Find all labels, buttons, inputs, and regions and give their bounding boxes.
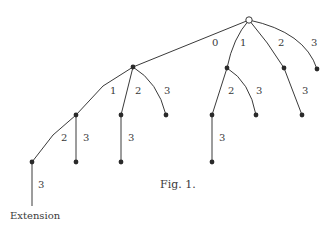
node bbox=[164, 113, 169, 118]
edge-label: 3 bbox=[256, 85, 262, 96]
edge-a-a2 bbox=[121, 67, 133, 115]
node bbox=[119, 160, 124, 165]
node bbox=[131, 65, 136, 70]
node bbox=[254, 113, 259, 118]
node bbox=[210, 160, 215, 165]
tree-diagram: 0 1 2 3 1 2 3 2 3 3 2 3 3 3 3 Fig. 1. Ex… bbox=[0, 0, 335, 230]
edge-label: 3 bbox=[38, 179, 44, 190]
extension-label: Extension bbox=[10, 210, 61, 221]
node bbox=[225, 66, 230, 71]
tree-nodes bbox=[30, 17, 320, 165]
node bbox=[74, 160, 79, 165]
edge-label: 3 bbox=[128, 132, 134, 143]
node bbox=[210, 113, 215, 118]
edge-label: 3 bbox=[83, 132, 89, 143]
edge-label: 3 bbox=[219, 132, 225, 143]
edge-label: 3 bbox=[311, 37, 317, 48]
figure-caption: Fig. 1. bbox=[160, 178, 196, 191]
node bbox=[300, 113, 305, 118]
edge-r-a bbox=[133, 20, 249, 67]
edge-c-c3 bbox=[284, 68, 302, 115]
root-node bbox=[246, 17, 252, 23]
edge-label: 3 bbox=[302, 85, 308, 96]
edge-label: 2 bbox=[135, 85, 141, 96]
edge-labels: 0 1 2 3 1 2 3 2 3 3 2 3 3 3 3 bbox=[38, 37, 317, 190]
node bbox=[30, 160, 35, 165]
edge-a-a1 bbox=[76, 67, 133, 115]
edge-label: 2 bbox=[61, 132, 67, 143]
edge-label: 2 bbox=[278, 37, 284, 48]
node bbox=[74, 113, 79, 118]
node bbox=[315, 67, 320, 72]
edge-label: 3 bbox=[164, 85, 170, 96]
edge-label: 1 bbox=[110, 85, 116, 96]
edge-label: 0 bbox=[212, 37, 218, 48]
edge-label: 2 bbox=[228, 85, 234, 96]
edge-b-b2 bbox=[212, 68, 227, 115]
node bbox=[119, 113, 124, 118]
edge-a1-a12 bbox=[32, 115, 76, 162]
edge-label: 1 bbox=[240, 37, 246, 48]
node bbox=[282, 66, 287, 71]
